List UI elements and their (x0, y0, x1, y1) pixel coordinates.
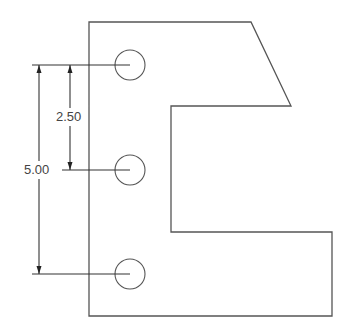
dimension-label-2-50: 2.50 (55, 110, 82, 124)
arrowhead-5-00-top (37, 65, 42, 73)
arrowhead-2-50-bottom (68, 162, 73, 170)
drawing-svg (0, 0, 362, 328)
part-outline (89, 22, 332, 316)
dimension-label-5-00: 5.00 (23, 163, 50, 177)
drawing-canvas: 2.50 5.00 (0, 0, 362, 328)
arrowhead-2-50-top (68, 65, 73, 73)
arrowhead-5-00-bottom (37, 266, 42, 274)
